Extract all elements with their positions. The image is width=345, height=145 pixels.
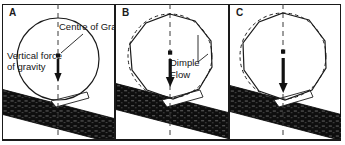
leader-line-cog: [61, 34, 83, 53]
ground-slope: [116, 82, 228, 140]
figure-root: A Centre of Gravity Vertical force of gr…: [0, 0, 345, 145]
panel-c-letter: C: [236, 8, 243, 18]
panel-a: A Centre of Gravity Vertical force of gr…: [3, 4, 114, 140]
vertical-force-label-line1: Vertical force: [7, 50, 62, 61]
vertical-force-label-line2: of gravity: [7, 61, 46, 72]
ground-slope: [230, 84, 341, 140]
centre-of-gravity-label: Centre of Gravity: [59, 21, 114, 32]
panel-c-graphic: [230, 4, 341, 140]
panel-b: B Dimple Flow: [116, 4, 228, 140]
centre-of-gravity-dot: [168, 51, 172, 55]
panel-c: C: [230, 4, 341, 140]
panel-b-letter: B: [122, 8, 129, 18]
dimple-flow-label-line2: Flow: [170, 69, 190, 80]
dimple-flow-label-line1: Dimple: [170, 57, 200, 68]
figure-baseline: [2, 139, 341, 141]
centre-of-gravity-dot: [281, 50, 285, 54]
gravity-arrow: [279, 58, 288, 93]
gravity-arrow: [54, 59, 61, 82]
panel-a-letter: A: [9, 8, 16, 18]
